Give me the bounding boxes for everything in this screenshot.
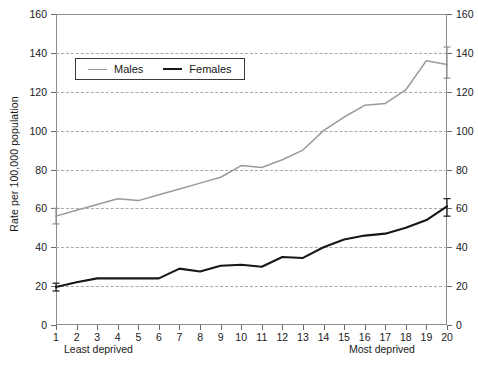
legend-line-females-icon	[163, 68, 182, 70]
x-tick-19	[426, 325, 427, 330]
x-axis-label-10: 10	[230, 332, 252, 343]
x-tick-2	[77, 325, 78, 330]
x-tick-9	[221, 325, 222, 330]
x-axis-label-11: 11	[251, 332, 273, 343]
y-axis-label-right-20: 20	[456, 281, 478, 291]
x-tick-7	[179, 325, 180, 330]
least-deprived-label: Least deprived	[64, 343, 133, 355]
x-tick-8	[200, 325, 201, 330]
y-axis-label-left-0: 0	[17, 320, 47, 330]
y-tick-right-80	[447, 170, 452, 171]
y-axis-label-right-0: 0	[456, 320, 478, 330]
x-axis-label-6: 6	[148, 332, 170, 343]
x-axis-label-8: 8	[189, 332, 211, 343]
x-axis-label-14: 14	[313, 332, 335, 343]
deprivation-rate-line-chart: Rate per 100,000 population 020406080100…	[0, 0, 478, 378]
x-axis-label-9: 9	[210, 332, 232, 343]
y-tick-right-100	[447, 131, 452, 132]
legend-label-females: Females	[189, 63, 231, 75]
y-axis-label-left-100: 100	[17, 126, 47, 136]
x-axis-label-18: 18	[395, 332, 417, 343]
x-axis-label-5: 5	[127, 332, 149, 343]
y-axis-label-left-120: 120	[17, 87, 47, 97]
x-axis-label-13: 13	[292, 332, 314, 343]
x-tick-14	[324, 325, 325, 330]
x-tick-12	[282, 325, 283, 330]
x-tick-15	[344, 325, 345, 330]
y-axis-label-right-140: 140	[456, 48, 478, 58]
most-deprived-label: Most deprived	[349, 343, 415, 355]
y-tick-right-140	[447, 53, 452, 54]
legend-line-males-icon	[88, 69, 107, 70]
y-axis-label-right-80: 80	[456, 165, 478, 175]
x-tick-10	[241, 325, 242, 330]
x-tick-13	[303, 325, 304, 330]
x-axis-label-19: 19	[415, 332, 437, 343]
y-axis-label-left-60: 60	[17, 203, 47, 213]
x-tick-16	[365, 325, 366, 330]
x-tick-17	[385, 325, 386, 330]
x-tick-11	[262, 325, 263, 330]
y-axis-label-right-120: 120	[456, 87, 478, 97]
legend: Males Females	[75, 58, 245, 80]
x-axis-label-3: 3	[86, 332, 108, 343]
series-line-males	[56, 61, 447, 217]
error-bar-males-x20	[444, 47, 451, 78]
plot-area: 020406080100120140160 020406080100120140…	[56, 14, 447, 325]
y-axis-label-right-160: 160	[456, 9, 478, 19]
x-tick-5	[138, 325, 139, 330]
y-tick-right-20	[447, 286, 452, 287]
series-line-females	[56, 206, 447, 287]
y-tick-right-120	[447, 92, 452, 93]
y-axis-label-left-40: 40	[17, 242, 47, 252]
y-axis-label-right-100: 100	[456, 126, 478, 136]
legend-item-females: Females	[163, 63, 231, 75]
x-axis-label-16: 16	[354, 332, 376, 343]
y-axis-label-right-60: 60	[456, 203, 478, 213]
x-axis-label-12: 12	[271, 332, 293, 343]
y-axis-label-right-40: 40	[456, 242, 478, 252]
x-tick-3	[97, 325, 98, 330]
y-axis-label-left-160: 160	[17, 9, 47, 19]
x-axis-label-2: 2	[66, 332, 88, 343]
x-axis-label-4: 4	[107, 332, 129, 343]
x-axis-label-1: 1	[45, 332, 67, 343]
y-tick-right-160	[447, 14, 452, 15]
legend-label-males: Males	[114, 63, 143, 75]
y-tick-right-60	[447, 208, 452, 209]
x-tick-18	[406, 325, 407, 330]
x-axis-label-15: 15	[333, 332, 355, 343]
x-tick-20	[447, 325, 448, 330]
x-axis-label-17: 17	[374, 332, 396, 343]
y-axis-label-left-80: 80	[17, 165, 47, 175]
x-axis-label-7: 7	[168, 332, 190, 343]
y-axis-label-left-20: 20	[17, 281, 47, 291]
x-tick-6	[159, 325, 160, 330]
legend-item-males: Males	[88, 63, 143, 75]
y-axis-label-left-140: 140	[17, 48, 47, 58]
x-tick-4	[118, 325, 119, 330]
x-tick-1	[56, 325, 57, 330]
y-tick-right-40	[447, 247, 452, 248]
x-axis-label-20: 20	[436, 332, 458, 343]
